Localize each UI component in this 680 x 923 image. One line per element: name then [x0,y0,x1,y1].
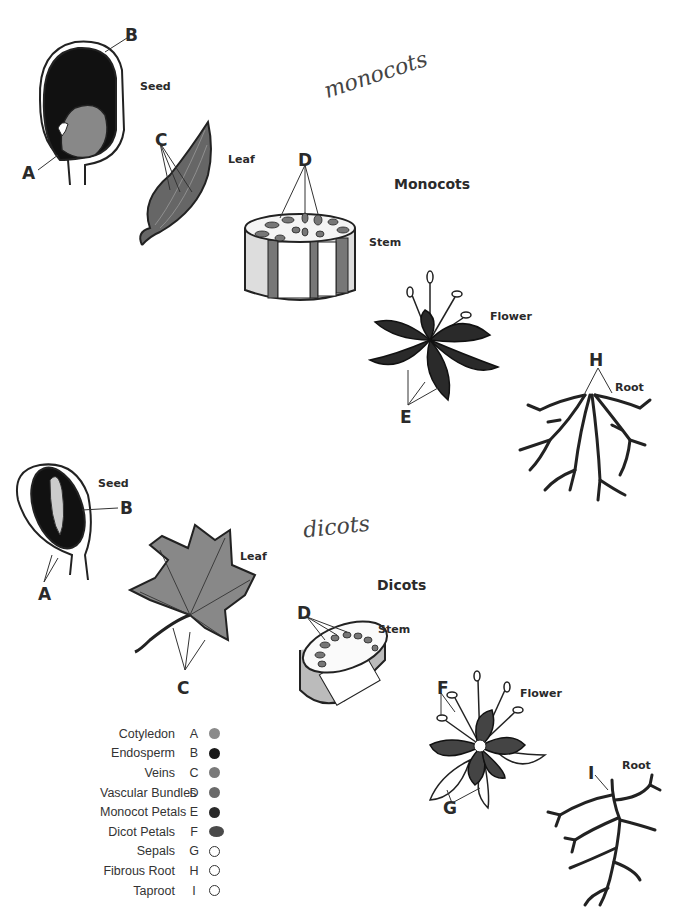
color-swatch-icon [209,728,220,739]
legend-letter: F [183,825,205,839]
monocot-label-b: B [125,25,138,45]
empty-circle-icon [209,885,220,896]
dicot-label-d: D [297,603,311,623]
legend-letter: G [183,844,205,858]
color-legend: Cotyledon A Endosperm B Veins C Vascular… [100,724,230,900]
monocot-part-seed: Seed [140,80,171,93]
color-swatch-icon [209,807,220,818]
legend-row-monocot-petals: Monocot Petals E [100,802,230,822]
legend-name: Sepals [100,844,175,858]
monocots-title: Monocots [394,176,470,192]
legend-row-vascular-bundles: Vascular Bundles D [100,783,230,803]
legend-name: Veins [100,766,175,780]
legend-letter: H [183,864,205,878]
legend-name: Taproot [100,884,175,898]
monocot-part-root: Root [615,381,644,394]
dicot-label-g: G [443,798,457,818]
color-swatch-icon [209,748,220,759]
dicot-part-stem: Stem [378,623,410,636]
empty-circle-icon [209,865,220,876]
legend-name: Vascular Bundles [100,786,175,800]
monocot-label-e: E [400,407,412,427]
monocot-leaf-illustration [140,122,211,245]
legend-letter: E [183,805,205,819]
taproot-illustration [548,775,660,905]
legend-row-fibrous-root: Fibrous Root H [100,861,230,881]
dicot-part-root: Root [622,759,651,772]
legend-row-cotyledon: Cotyledon A [100,724,230,744]
legend-letter: I [183,884,205,898]
legend-row-endosperm: Endosperm B [100,744,230,764]
monocot-part-leaf: Leaf [228,153,255,166]
legend-letter: C [183,766,205,780]
monocot-flower-illustration [370,271,498,405]
legend-row-veins: Veins C [100,763,230,783]
dicot-label-f: F [437,678,449,698]
monocot-label-c: C [155,130,167,150]
monocot-part-flower: Flower [490,310,532,323]
legend-name: Dicot Petals [100,825,175,839]
monocot-label-d: D [298,150,312,170]
monocot-label-a: A [22,163,35,183]
monocot-stem-illustration [245,165,355,300]
fibrous-root-illustration [520,395,650,500]
color-swatch-icon [209,826,224,837]
dicot-leaf-illustration [130,525,255,670]
legend-name: Monocot Petals [100,805,175,819]
legend-letter: B [183,746,205,760]
empty-circle-icon [209,846,220,857]
legend-name: Endosperm [100,746,175,760]
monocot-label-h: H [589,350,603,370]
dicot-part-flower: Flower [520,687,562,700]
legend-name: Cotyledon [100,727,175,741]
legend-letter: A [183,727,205,741]
dicot-part-seed: Seed [98,477,129,490]
dicot-label-c: C [177,678,189,698]
dicot-label-i: I [588,763,594,783]
dicots-title: Dicots [377,577,426,593]
legend-row-sepals: Sepals G [100,842,230,862]
legend-row-dicot-petals: Dicot Petals F [100,822,230,842]
dicot-label-a: A [38,584,51,604]
legend-name: Fibrous Root [100,864,175,878]
color-swatch-icon [209,767,220,778]
monocot-part-stem: Stem [369,236,401,249]
monocot-seed-illustration [38,38,127,185]
color-swatch-icon [209,787,220,798]
legend-row-taproot: Taproot I [100,881,230,901]
dicot-label-b: B [120,498,133,518]
dicot-part-leaf: Leaf [240,550,267,563]
legend-letter: D [183,786,205,800]
